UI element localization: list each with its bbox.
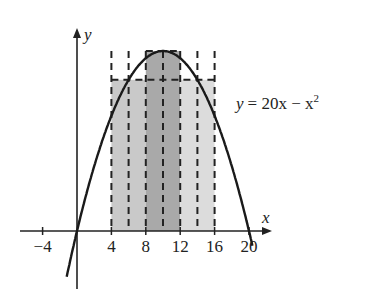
tick-label: 16 <box>206 237 223 256</box>
tick-label: 20 <box>241 237 258 256</box>
tick-label: 12 <box>172 237 189 256</box>
tick-label: 4 <box>107 237 116 256</box>
x-axis-arrow-icon <box>262 227 272 235</box>
tick-label: −4 <box>34 237 53 256</box>
y-axis-arrow-icon <box>73 28 81 38</box>
function-label: y= 20x − x2 <box>234 92 319 113</box>
tick-label: 8 <box>142 237 151 256</box>
y-axis-label: y <box>82 25 92 44</box>
riemann-sum-figure: −448121620 y x y= 20x − x2 <box>0 0 370 292</box>
x-axis-label: x <box>261 208 270 227</box>
